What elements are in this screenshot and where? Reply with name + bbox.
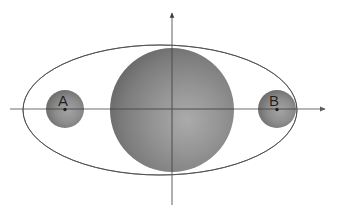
sphere-a-label: A [58, 93, 68, 108]
sphere-b-label: B [269, 93, 279, 108]
diagram-canvas [0, 0, 341, 217]
orbital-diagram: A B [0, 0, 341, 217]
